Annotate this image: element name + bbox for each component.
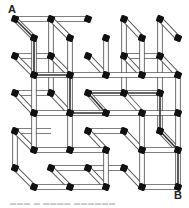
- maze-diagram: [0, 0, 189, 208]
- tube-inner: [15, 168, 34, 187]
- tube-inner: [51, 19, 70, 38]
- figure-caption: ▬▬▬ ▬ ▬▬▬▬ ▬▬▬▬▬▬: [10, 200, 116, 206]
- start-label: A: [8, 4, 16, 15]
- solution-path: [15, 19, 178, 187]
- node-cube: [66, 146, 75, 155]
- tube-inner: [15, 131, 34, 150]
- tube-inner: [88, 131, 106, 150]
- tube-inner: [15, 93, 34, 113]
- tube-inner: [51, 56, 70, 75]
- node-cube: [84, 15, 93, 24]
- tube-inner: [51, 93, 70, 113]
- end-label: B: [174, 190, 182, 201]
- node-cube: [174, 109, 183, 118]
- tube-inner: [15, 56, 34, 75]
- tube-inner: [51, 168, 70, 187]
- node-cube: [102, 34, 111, 43]
- tube-inner: [124, 93, 142, 113]
- node-cube: [156, 89, 165, 98]
